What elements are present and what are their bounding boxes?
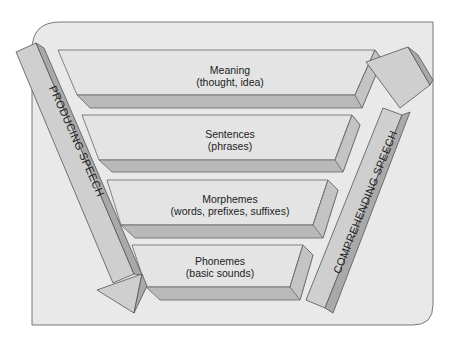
level-meaning-label: Meaning (thought, idea) <box>150 64 310 88</box>
language-levels-diagram <box>0 0 456 347</box>
level-subtitle: (thought, idea) <box>150 76 310 88</box>
level-sentences-label: Sentences (phrases) <box>150 128 310 152</box>
level-phonemes-label: Phonemes (basic sounds) <box>140 255 300 279</box>
level-subtitle: (basic sounds) <box>140 267 300 279</box>
level-subtitle: (phrases) <box>150 140 310 152</box>
level-morphemes-label: Morphemes (words, prefixes, suffixes) <box>130 193 330 217</box>
level-title: Sentences <box>150 128 310 140</box>
level-title: Phonemes <box>140 255 300 267</box>
level-title: Meaning <box>150 64 310 76</box>
level-subtitle: (words, prefixes, suffixes) <box>130 205 330 217</box>
level-title: Morphemes <box>130 193 330 205</box>
